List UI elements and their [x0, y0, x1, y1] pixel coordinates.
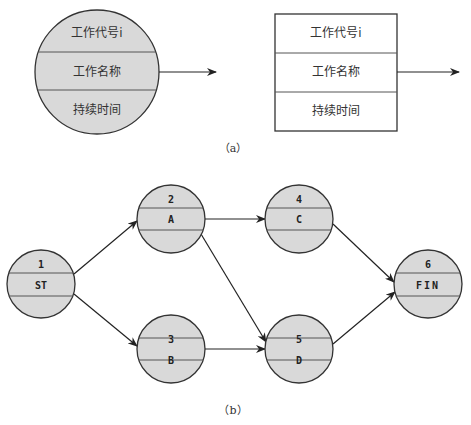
node-6-fin: 6 FIN — [388, 250, 468, 318]
circle-node-legend: 工作代号i 工作名称 持续时间 — [30, 10, 165, 134]
node-id: 4 — [296, 194, 302, 205]
edge-4-6 — [333, 224, 394, 282]
node-4-c: 4 C — [258, 185, 340, 253]
field-name: 工作名称 — [73, 64, 121, 79]
edge-1-2 — [74, 221, 137, 274]
caption-a: （a） — [219, 142, 248, 155]
node-id: 6 — [425, 259, 431, 270]
node-name: A — [168, 214, 174, 225]
edge-2-5 — [201, 234, 266, 342]
node-5-d: 5 D — [258, 315, 340, 383]
node-id: 5 — [296, 334, 302, 345]
edge-5-6 — [333, 292, 395, 344]
node-id: 2 — [168, 194, 174, 205]
network-diagram: 工作代号i 工作名称 持续时间 工作代号i 工作名称 持续时间 （a） 1 ST — [0, 0, 471, 425]
node-id: 1 — [38, 259, 44, 270]
edge-1-3 — [74, 294, 137, 346]
node-3-b: 3 B — [130, 315, 210, 383]
node-name: ST — [35, 280, 47, 291]
field-code: 工作代号i — [71, 26, 122, 40]
field-duration: 持续时间 — [73, 102, 121, 117]
caption-b: （b） — [218, 404, 247, 417]
node-1-st: 1 ST — [0, 250, 80, 318]
field-name: 工作名称 — [312, 64, 360, 79]
node-id: 3 — [168, 334, 174, 345]
field-duration: 持续时间 — [312, 103, 360, 118]
node-name: C — [296, 214, 302, 225]
field-code: 工作代号i — [310, 26, 361, 40]
node-name: D — [296, 355, 302, 366]
node-2-a: 2 A — [130, 185, 210, 253]
edges — [74, 219, 395, 349]
box-node-legend: 工作代号i 工作名称 持续时间 — [275, 14, 397, 131]
node-name: B — [168, 355, 174, 366]
node-name: FIN — [416, 280, 440, 291]
